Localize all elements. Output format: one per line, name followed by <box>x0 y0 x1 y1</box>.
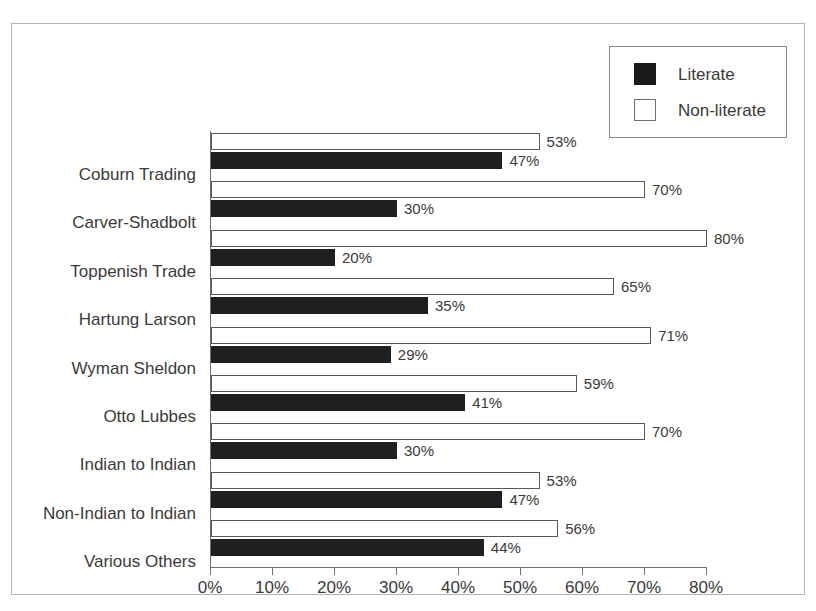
bar-literate[interactable] <box>211 152 502 169</box>
bar-non-literate[interactable] <box>211 327 651 344</box>
chart-frame: Literate Non-literate Coburn TradingCarv… <box>11 23 805 595</box>
x-axis-tick-label: 20% <box>317 579 351 596</box>
x-axis-tick-mark <box>210 568 211 575</box>
x-axis-tick-mark <box>272 568 273 575</box>
x-axis-tick-mark <box>706 568 707 575</box>
plot-area: 53%47%70%30%80%20%65%35%71%29%59%41%70%3… <box>210 131 810 568</box>
bar-literate[interactable] <box>211 249 335 266</box>
category-axis: Coburn TradingCarver-ShadboltToppenish T… <box>23 154 210 591</box>
bar-value-label-non-literate: 53% <box>540 472 577 489</box>
bar-value-label-literate: 29% <box>391 346 428 363</box>
bar-literate[interactable] <box>211 442 397 459</box>
bar-non-literate[interactable] <box>211 278 614 295</box>
x-axis-tick-mark <box>334 568 335 575</box>
bar-value-label-literate: 47% <box>502 491 539 508</box>
chart-legend: Literate Non-literate <box>609 46 787 138</box>
x-axis-tick-mark <box>644 568 645 575</box>
x-axis-tick-label: 80% <box>689 579 723 596</box>
category-label: Non-Indian to Indian <box>43 504 196 521</box>
bar-literate[interactable] <box>211 346 391 363</box>
bar-value-label-non-literate: 70% <box>645 181 682 198</box>
bar-non-literate[interactable] <box>211 181 645 198</box>
category-label: Hartung Larson <box>79 311 196 328</box>
legend-swatch-non-literate-icon <box>634 99 656 121</box>
x-axis-tick-label: 70% <box>627 579 661 596</box>
bar-literate[interactable] <box>211 394 465 411</box>
x-axis-tick-label: 40% <box>441 579 475 596</box>
bar-non-literate[interactable] <box>211 133 540 150</box>
bar-non-literate[interactable] <box>211 520 558 537</box>
bar-value-label-literate: 20% <box>335 249 372 266</box>
category-label: Carver-Shadbolt <box>72 214 196 231</box>
bar-value-label-literate: 30% <box>397 200 434 217</box>
category-label: Various Others <box>84 553 196 570</box>
bar-value-label-non-literate: 53% <box>540 133 577 150</box>
x-axis-tick-label: 0% <box>198 579 223 596</box>
bar-value-label-non-literate: 71% <box>651 327 688 344</box>
bar-value-label-literate: 30% <box>397 442 434 459</box>
legend-entry-non-literate[interactable]: Non-literate <box>634 97 766 123</box>
bar-value-label-literate: 44% <box>484 539 521 556</box>
x-axis-tick-mark <box>458 568 459 575</box>
legend-entry-literate[interactable]: Literate <box>634 61 735 87</box>
bar-value-label-literate: 41% <box>465 394 502 411</box>
bar-value-label-literate: 35% <box>428 297 465 314</box>
bar-non-literate[interactable] <box>211 375 577 392</box>
x-axis-ticks: 0%10%20%30%40%50%60%70%80% <box>210 568 810 611</box>
x-axis-tick-label: 30% <box>379 579 413 596</box>
bar-literate[interactable] <box>211 539 484 556</box>
x-axis-tick-mark <box>520 568 521 575</box>
category-label: Coburn Trading <box>79 166 196 183</box>
category-label: Wyman Sheldon <box>71 359 196 376</box>
x-axis-tick-label: 60% <box>565 579 599 596</box>
category-label: Toppenish Trade <box>70 262 196 279</box>
x-axis-tick-label: 50% <box>503 579 537 596</box>
bar-value-label-non-literate: 56% <box>558 520 595 537</box>
bar-non-literate[interactable] <box>211 230 707 247</box>
bar-literate[interactable] <box>211 200 397 217</box>
category-label: Indian to Indian <box>80 456 196 473</box>
bar-value-label-non-literate: 70% <box>645 423 682 440</box>
legend-swatch-literate-icon <box>634 63 656 85</box>
legend-label-non-literate: Non-literate <box>678 102 766 119</box>
bar-value-label-non-literate: 80% <box>707 230 744 247</box>
x-axis-tick-mark <box>582 568 583 575</box>
bar-value-label-non-literate: 65% <box>614 278 651 295</box>
bar-non-literate[interactable] <box>211 472 540 489</box>
bar-literate[interactable] <box>211 297 428 314</box>
category-label: Otto Lubbes <box>103 408 196 425</box>
bar-non-literate[interactable] <box>211 423 645 440</box>
x-axis-tick-label: 10% <box>255 579 289 596</box>
x-axis-tick-mark <box>396 568 397 575</box>
legend-label-literate: Literate <box>678 66 735 83</box>
bar-literate[interactable] <box>211 491 502 508</box>
bar-value-label-non-literate: 59% <box>577 375 614 392</box>
bar-value-label-literate: 47% <box>502 152 539 169</box>
